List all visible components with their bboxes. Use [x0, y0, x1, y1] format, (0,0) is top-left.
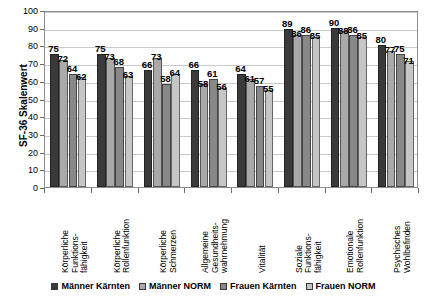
bar — [340, 31, 349, 187]
x-axis-category-label: Wohlbefinden — [403, 221, 413, 273]
bar — [256, 86, 265, 187]
bar — [106, 58, 115, 187]
y-axis-tick-label: 0 — [12, 184, 38, 193]
y-axis-tick-label: 40 — [12, 113, 38, 122]
x-axis-category-label: fähigkeit — [80, 241, 90, 273]
bar — [302, 35, 311, 187]
bar — [331, 28, 340, 187]
legend-swatch-icon — [139, 283, 146, 290]
bar — [349, 35, 358, 187]
bar — [78, 77, 87, 187]
bar — [69, 74, 78, 187]
bar-value-label: 61 — [203, 69, 221, 79]
y-axis-tick-label: 70 — [12, 60, 38, 69]
x-axis-category-label: fähigkeit — [314, 241, 324, 273]
x-axis-tick-mark — [91, 188, 92, 193]
x-axis-category-label: Rollenfunktion — [122, 219, 132, 273]
bar-value-label: 75 — [390, 44, 408, 54]
legend-item[interactable]: Männer NORM — [139, 281, 211, 291]
y-axis-tick-label: 100 — [12, 7, 38, 16]
bar — [97, 54, 106, 187]
bar-value-label: 73 — [147, 52, 165, 62]
bar — [265, 90, 274, 187]
bar — [387, 51, 396, 187]
bar — [237, 74, 246, 187]
y-axis-tick-mark — [40, 170, 44, 171]
bar-value-label: 66 — [185, 60, 203, 70]
bar-value-label: 71 — [399, 56, 417, 66]
legend-swatch-icon — [306, 283, 313, 290]
y-axis-tick-mark — [40, 153, 44, 154]
bar — [396, 54, 405, 187]
x-axis-tick-mark — [184, 188, 185, 193]
bar — [218, 88, 227, 187]
bar-value-label: 64 — [166, 68, 184, 78]
bar — [50, 54, 59, 187]
legend-swatch-icon — [51, 283, 58, 290]
y-axis-tick-label: 50 — [12, 96, 38, 105]
x-axis-tick-mark — [278, 188, 279, 193]
bar — [246, 79, 255, 187]
bar — [405, 61, 414, 187]
y-axis-tick-mark — [40, 117, 44, 118]
bar — [162, 84, 171, 187]
bar — [209, 79, 218, 187]
bar — [171, 74, 180, 187]
bar — [284, 29, 293, 187]
x-axis-category-label: wahrnehmung — [220, 219, 230, 273]
sf36-bar-chart: SF-36 Skalenwert 0102030405060708090100 … — [0, 0, 427, 299]
x-axis-tick-mark — [325, 188, 326, 193]
gridline — [45, 12, 417, 13]
y-axis-tick-mark — [40, 11, 44, 12]
y-axis-tick-mark — [40, 82, 44, 83]
bar — [378, 45, 387, 187]
legend-swatch-icon — [220, 283, 227, 290]
bar — [358, 37, 367, 187]
bar-value-label: 68 — [110, 57, 128, 67]
bar-value-label: 63 — [119, 70, 137, 80]
x-axis-tick-mark — [371, 188, 372, 193]
bar — [144, 70, 153, 187]
legend-item[interactable]: Frauen Kärnten — [220, 281, 297, 291]
x-axis-tick-mark — [418, 188, 419, 193]
bar — [312, 37, 321, 187]
bar — [125, 76, 134, 188]
x-axis-category-label: Rollenfunktion — [356, 219, 366, 273]
bar-value-label: 55 — [259, 84, 277, 94]
y-axis-tick-mark — [40, 64, 44, 65]
bar-value-label: 56 — [212, 82, 230, 92]
y-axis-tick-label: 20 — [12, 149, 38, 158]
x-axis-category-label: Schmerzen — [169, 230, 179, 273]
bar — [200, 84, 209, 187]
legend-item[interactable]: Männer Kärnten — [51, 281, 130, 291]
legend-item-label: Frauen NORM — [316, 281, 376, 291]
y-axis-tick-label: 90 — [12, 25, 38, 34]
y-axis-tick-label: 60 — [12, 78, 38, 87]
bar-value-label: 58 — [194, 79, 212, 89]
y-axis-tick-mark — [40, 29, 44, 30]
bar — [293, 35, 302, 187]
x-axis-tick-mark — [138, 188, 139, 193]
bar — [115, 67, 124, 187]
bar-value-label: 64 — [232, 64, 250, 74]
y-axis-tick-mark — [40, 135, 44, 136]
bar-value-label: 85 — [353, 31, 371, 41]
y-axis-tick-mark — [40, 46, 44, 47]
y-axis-tick-label: 80 — [12, 42, 38, 51]
legend-item-label: Männer Kärnten — [61, 281, 130, 291]
bar — [59, 60, 68, 187]
y-axis-tick-label: 10 — [12, 166, 38, 175]
legend-item-label: Männer NORM — [149, 281, 211, 291]
bar-value-label: 85 — [306, 31, 324, 41]
x-axis-tick-mark — [231, 188, 232, 193]
x-axis-tick-mark — [44, 188, 45, 193]
bar-value-label: 62 — [72, 72, 90, 82]
chart-legend: Männer KärntenMänner NORMFrauen KärntenF… — [0, 281, 427, 291]
y-axis-tick-label: 30 — [12, 131, 38, 140]
legend-item[interactable]: Frauen NORM — [306, 281, 376, 291]
y-axis-tick-mark — [40, 100, 44, 101]
x-axis-category-label: Vitalität — [258, 245, 268, 273]
legend-item-label: Frauen Kärnten — [230, 281, 297, 291]
